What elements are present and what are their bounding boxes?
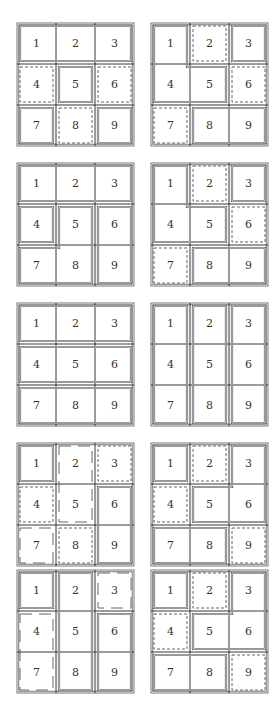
panel-r3-right: 123456789 [150, 302, 268, 426]
cell-label-7: 7 [151, 525, 190, 566]
cell-label-2: 2 [190, 443, 229, 484]
cell-label-7: 7 [17, 245, 56, 286]
cell-label-9: 9 [229, 105, 268, 146]
panel-r2-right: 123456789 [150, 162, 268, 286]
cell-label-9: 9 [95, 652, 134, 693]
cell-label-4: 4 [151, 344, 190, 385]
cell-label-8: 8 [56, 525, 95, 566]
cell-label-4: 4 [17, 611, 56, 652]
panel-r1-left: 123456789 [16, 22, 134, 146]
cell-label-1: 1 [17, 163, 56, 204]
cell-label-6: 6 [229, 64, 268, 105]
cell-label-1: 1 [151, 23, 190, 64]
cell-label-1: 1 [17, 23, 56, 64]
cell-label-6: 6 [229, 204, 268, 245]
cell-label-3: 3 [229, 443, 268, 484]
cell-label-5: 5 [190, 344, 229, 385]
cell-label-8: 8 [56, 652, 95, 693]
cell-label-2: 2 [56, 303, 95, 344]
cell-label-4: 4 [151, 484, 190, 525]
cell-label-2: 2 [56, 443, 95, 484]
panel-r4-right: 123456789 [150, 442, 268, 566]
cell-label-8: 8 [190, 105, 229, 146]
cell-label-8: 8 [190, 245, 229, 286]
cell-label-9: 9 [229, 652, 268, 693]
cell-label-2: 2 [190, 163, 229, 204]
cell-label-3: 3 [95, 23, 134, 64]
cell-label-4: 4 [17, 204, 56, 245]
cell-label-2: 2 [56, 570, 95, 611]
cell-label-8: 8 [56, 245, 95, 286]
cell-label-2: 2 [56, 163, 95, 204]
cell-label-5: 5 [190, 611, 229, 652]
cell-label-4: 4 [151, 611, 190, 652]
cell-label-5: 5 [56, 344, 95, 385]
cell-label-5: 5 [56, 204, 95, 245]
cell-label-6: 6 [229, 344, 268, 385]
cell-label-1: 1 [151, 163, 190, 204]
cell-label-2: 2 [190, 570, 229, 611]
panel-r1-right: 123456789 [150, 22, 268, 146]
cell-label-6: 6 [95, 64, 134, 105]
panel-r4-left: 123456789 [16, 442, 134, 566]
cell-label-8: 8 [190, 652, 229, 693]
panel-r5-left: 123456789 [16, 569, 134, 693]
cell-label-9: 9 [95, 525, 134, 566]
cell-label-8: 8 [56, 385, 95, 426]
cell-label-3: 3 [95, 163, 134, 204]
cell-label-3: 3 [95, 570, 134, 611]
cell-label-7: 7 [151, 245, 190, 286]
cell-label-4: 4 [151, 204, 190, 245]
cell-label-5: 5 [56, 611, 95, 652]
cell-label-7: 7 [17, 652, 56, 693]
cell-label-9: 9 [95, 385, 134, 426]
cell-label-6: 6 [95, 204, 134, 245]
cell-label-7: 7 [151, 385, 190, 426]
cell-label-8: 8 [190, 525, 229, 566]
panel-r3-left: 123456789 [16, 302, 134, 426]
cell-label-5: 5 [190, 484, 229, 525]
cell-label-3: 3 [95, 303, 134, 344]
cell-label-8: 8 [190, 385, 229, 426]
cell-label-1: 1 [151, 303, 190, 344]
cell-label-3: 3 [95, 443, 134, 484]
cell-label-2: 2 [56, 23, 95, 64]
cell-label-5: 5 [190, 64, 229, 105]
cell-label-2: 2 [190, 303, 229, 344]
cell-label-6: 6 [95, 611, 134, 652]
cell-label-1: 1 [151, 570, 190, 611]
panel-r5-right: 123456789 [150, 569, 268, 693]
cell-label-3: 3 [229, 163, 268, 204]
cell-label-7: 7 [151, 652, 190, 693]
panel-r2-left: 123456789 [16, 162, 134, 286]
cell-label-1: 1 [17, 303, 56, 344]
cell-label-9: 9 [95, 245, 134, 286]
cell-label-5: 5 [190, 204, 229, 245]
cell-label-6: 6 [95, 484, 134, 525]
cell-label-7: 7 [17, 105, 56, 146]
cell-label-3: 3 [229, 303, 268, 344]
cell-label-2: 2 [190, 23, 229, 64]
cell-label-4: 4 [17, 484, 56, 525]
cell-label-6: 6 [229, 484, 268, 525]
cell-label-4: 4 [17, 64, 56, 105]
cell-label-7: 7 [17, 525, 56, 566]
cell-label-7: 7 [17, 385, 56, 426]
cell-label-1: 1 [17, 443, 56, 484]
cell-label-9: 9 [229, 245, 268, 286]
cell-label-7: 7 [151, 105, 190, 146]
cell-label-9: 9 [229, 385, 268, 426]
cell-label-3: 3 [229, 23, 268, 64]
cell-label-6: 6 [95, 344, 134, 385]
cell-label-1: 1 [17, 570, 56, 611]
cell-label-1: 1 [151, 443, 190, 484]
cell-label-3: 3 [229, 570, 268, 611]
cell-label-8: 8 [56, 105, 95, 146]
cell-label-9: 9 [229, 525, 268, 566]
cell-label-5: 5 [56, 64, 95, 105]
cell-label-4: 4 [151, 64, 190, 105]
cell-label-6: 6 [229, 611, 268, 652]
cell-label-4: 4 [17, 344, 56, 385]
cell-label-9: 9 [95, 105, 134, 146]
cell-label-5: 5 [56, 484, 95, 525]
